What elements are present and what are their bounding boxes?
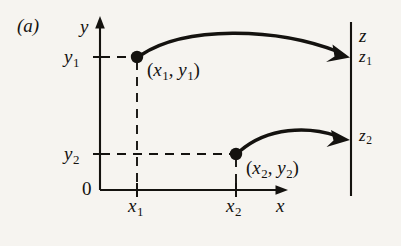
z2-label: z2 <box>359 127 372 147</box>
point-marker-1 <box>131 51 143 63</box>
x1-tick-label: x1 <box>128 196 143 219</box>
y-axis-arrowhead <box>95 16 105 29</box>
diagram-canvas <box>0 0 401 246</box>
z1-var: z <box>359 47 366 66</box>
point-1-y-sub: 1 <box>187 68 194 83</box>
y2-tick-sub: 2 <box>72 152 79 167</box>
point-2-close-paren: ) <box>293 157 299 178</box>
x-axis <box>100 185 288 195</box>
point-1-x-sub: 1 <box>162 68 169 83</box>
x2-tick-sub: 2 <box>234 204 241 219</box>
x2-tick-label: x2 <box>226 196 241 219</box>
y2-tick-label: y2 <box>64 144 79 167</box>
point-1-coordinate-label: (x1, y1) <box>147 60 200 83</box>
y-axis-label: y <box>80 17 88 36</box>
origin-label: 0 <box>82 179 92 198</box>
mapping-arrow-1 <box>141 33 350 62</box>
point-1-comma: , <box>169 59 179 80</box>
mapping-arrow-2-curve <box>240 130 337 151</box>
point-2-y-sub: 2 <box>286 166 293 181</box>
z-axis-label: z <box>359 26 366 45</box>
z1-label: z1 <box>359 48 372 68</box>
y-axis <box>95 16 105 190</box>
point-marker-2 <box>230 148 242 160</box>
x1-tick-sub: 1 <box>136 204 143 219</box>
z1-sub: 1 <box>366 55 372 68</box>
point-2-x-sub: 2 <box>261 166 268 181</box>
z2-var: z <box>359 126 366 145</box>
point-1-close-paren: ) <box>194 59 200 80</box>
x-axis-label: x <box>276 196 284 215</box>
y1-tick-sub: 1 <box>72 55 79 70</box>
point-2-x-var: x <box>252 157 260 178</box>
mapping-arrow-1-curve <box>141 33 339 55</box>
point-2-y-var: y <box>277 157 285 178</box>
point-1-y-var: y <box>178 59 186 80</box>
x-axis-arrowhead <box>276 185 289 195</box>
panel-label: (a) <box>17 16 39 35</box>
figure-panel-a: (a) y x z 0 y1 y2 x1 x2 (x1, y1) (x2, y2… <box>0 0 401 246</box>
mapping-arrow-2 <box>240 130 350 151</box>
point-1-x-var: x <box>153 59 161 80</box>
point-2-coordinate-label: (x2, y2) <box>246 158 299 181</box>
y1-tick-label: y1 <box>64 47 79 70</box>
point-2-comma: , <box>268 157 278 178</box>
z2-sub: 2 <box>366 134 372 147</box>
